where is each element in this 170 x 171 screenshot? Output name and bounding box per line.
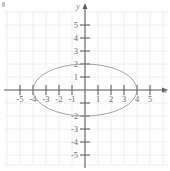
x-tick-label: 5 — [148, 94, 152, 104]
axis-arrowheads — [83, 3, 168, 92]
x-tick-label: -5 — [16, 94, 23, 104]
axis-lines — [4, 5, 166, 168]
y-tick-label: -3 — [71, 124, 78, 134]
x-tick-label: -2 — [55, 94, 62, 104]
x-tick-label: 3 — [122, 94, 126, 104]
y-tick-label: -4 — [71, 137, 79, 147]
coordinate-plane: -5 -4 -3 -2 -1 1 2 3 4 5 5 4 3 2 1 -2 -3… — [0, 0, 170, 171]
x-tick-label: -1 — [68, 94, 75, 104]
x-tick-label: 1 — [96, 94, 100, 104]
x-axis-label: x — [163, 86, 167, 95]
y-axis-arrow — [83, 3, 88, 9]
x-tick-label: 2 — [109, 94, 113, 104]
graph-figure: -5 -4 -3 -2 -1 1 2 3 4 5 5 4 3 2 1 -2 -3… — [0, 0, 170, 171]
y-tick-label: 3 — [74, 46, 78, 56]
x-tick-label: -3 — [42, 94, 49, 104]
y-tick-label: -5 — [71, 150, 78, 160]
y-tick-label: 5 — [74, 20, 78, 30]
y-tick-label: 1 — [74, 72, 78, 82]
y-axis-label: y — [76, 2, 80, 11]
